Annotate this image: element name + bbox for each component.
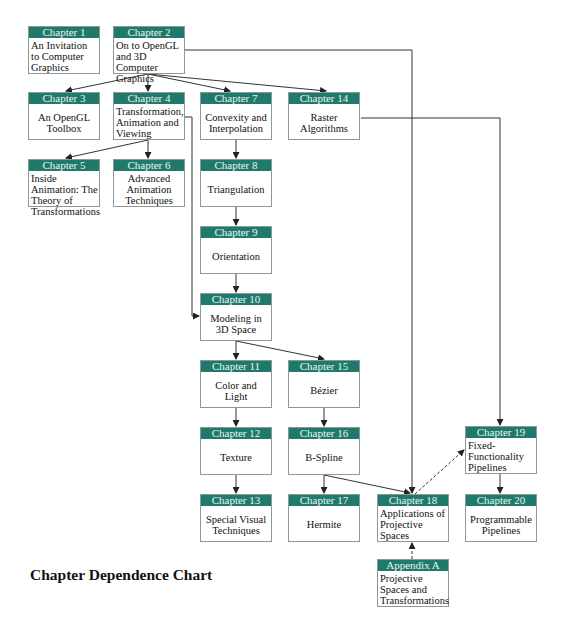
node-title: Programmable Pipelines — [466, 506, 536, 543]
node-title: Triangulation — [201, 171, 271, 208]
node-title: Projective Spaces and Transformations — [378, 571, 448, 609]
node-title: Color and Light — [201, 372, 271, 409]
node-title: An OpenGL Toolbox — [29, 104, 99, 141]
node-ch18: Chapter 18Applications of Projective Spa… — [377, 494, 449, 542]
node-header: Chapter 14 — [289, 93, 359, 104]
node-title: Applications of Projective Spaces — [378, 506, 448, 544]
node-title: B-Spline — [289, 439, 359, 476]
node-ch1: Chapter 1An Invitation to Computer Graph… — [28, 26, 100, 74]
node-ch6: Chapter 6Advanced Animation Techniques — [113, 159, 185, 207]
node-ch10: Chapter 10Modeling in 3D Space — [200, 293, 272, 341]
node-title: On to OpenGL and 3D Computer Graphics — [114, 38, 184, 76]
node-title: Hermite — [289, 506, 359, 543]
node-title: Convexity and Interpolation — [201, 104, 271, 141]
node-header: Chapter 7 — [201, 93, 271, 104]
node-title: An Invitation to Computer Graphics — [29, 38, 99, 76]
node-ch4: Chapter 4Transformation, Animation and V… — [113, 92, 185, 140]
chart-title: Chapter Dependence Chart — [30, 566, 212, 584]
node-ch5: Chapter 5Inside Animation: The Theory of… — [28, 159, 100, 207]
node-title: Inside Animation: The Theory of Transfor… — [29, 171, 99, 209]
node-ch11: Chapter 11Color and Light — [200, 360, 272, 408]
node-header: Chapter 8 — [201, 160, 271, 171]
node-header: Chapter 1 — [29, 27, 99, 38]
node-title: Raster Algorithms — [289, 104, 359, 141]
node-ch17: Chapter 17Hermite — [288, 494, 360, 542]
node-header: Chapter 17 — [289, 495, 359, 506]
node-header: Appendix A — [378, 560, 448, 571]
node-header: Chapter 11 — [201, 361, 271, 372]
node-appA: Appendix AProjective Spaces and Transfor… — [377, 559, 449, 607]
node-ch9: Chapter 9Orientation — [200, 226, 272, 274]
node-ch16: Chapter 16B-Spline — [288, 427, 360, 475]
node-header: Chapter 12 — [201, 428, 271, 439]
node-header: Chapter 9 — [201, 227, 271, 238]
node-title: Modeling in 3D Space — [201, 305, 271, 342]
node-header: Chapter 2 — [114, 27, 184, 38]
node-ch12: Chapter 12Texture — [200, 427, 272, 475]
node-header: Chapter 4 — [114, 93, 184, 104]
node-header: Chapter 20 — [466, 495, 536, 506]
node-header: Chapter 3 — [29, 93, 99, 104]
node-header: Chapter 13 — [201, 495, 271, 506]
node-header: Chapter 18 — [378, 495, 448, 506]
node-title: Texture — [201, 439, 271, 476]
node-ch20: Chapter 20Programmable Pipelines — [465, 494, 537, 542]
node-ch7: Chapter 7Convexity and Interpolation — [200, 92, 272, 140]
node-title: Orientation — [201, 238, 271, 275]
node-ch3: Chapter 3An OpenGL Toolbox — [28, 92, 100, 140]
node-ch15: Chapter 15Bézier — [288, 360, 360, 408]
node-title: Special Visual Techniques — [201, 506, 271, 543]
node-header: Chapter 5 — [29, 160, 99, 171]
node-title: Advanced Animation Techniques — [114, 171, 184, 208]
node-title: Transformation, Animation and Viewing — [114, 104, 184, 142]
node-ch8: Chapter 8Triangulation — [200, 159, 272, 207]
node-header: Chapter 19 — [466, 427, 536, 438]
node-ch14: Chapter 14Raster Algorithms — [288, 92, 360, 140]
node-title: Fixed-Functionality Pipelines — [466, 438, 536, 476]
node-header: Chapter 6 — [114, 160, 184, 171]
node-ch2: Chapter 2On to OpenGL and 3D Computer Gr… — [113, 26, 185, 74]
node-header: Chapter 15 — [289, 361, 359, 372]
node-ch13: Chapter 13Special Visual Techniques — [200, 494, 272, 542]
node-header: Chapter 10 — [201, 294, 271, 305]
node-title: Bézier — [289, 372, 359, 409]
node-header: Chapter 16 — [289, 428, 359, 439]
node-ch19: Chapter 19Fixed-Functionality Pipelines — [465, 426, 537, 474]
